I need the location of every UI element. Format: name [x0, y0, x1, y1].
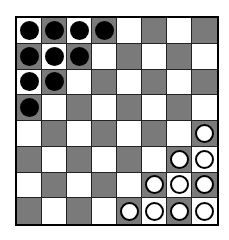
board-square-0-5[interactable]: [142, 18, 167, 44]
white-piece[interactable]: [145, 175, 164, 194]
black-piece[interactable]: [95, 21, 114, 40]
board-square-2-5[interactable]: [142, 70, 167, 96]
board-square-2-7[interactable]: [192, 70, 217, 96]
white-piece[interactable]: [120, 202, 139, 221]
black-piece[interactable]: [20, 47, 39, 66]
board-square-1-6[interactable]: [167, 44, 192, 70]
board-square-5-6[interactable]: [167, 147, 192, 173]
board-square-0-3[interactable]: [92, 18, 117, 44]
board-square-6-6[interactable]: [167, 173, 192, 199]
board-square-3-4[interactable]: [117, 95, 142, 121]
board-square-3-0[interactable]: [17, 95, 42, 121]
board-square-6-1[interactable]: [42, 173, 67, 199]
board-square-2-0[interactable]: [17, 70, 42, 96]
black-piece[interactable]: [45, 47, 64, 66]
white-piece[interactable]: [170, 202, 189, 221]
board-square-2-4[interactable]: [117, 70, 142, 96]
board-square-4-5[interactable]: [142, 121, 167, 147]
board-square-1-1[interactable]: [42, 44, 67, 70]
black-piece[interactable]: [45, 21, 64, 40]
white-piece[interactable]: [195, 175, 214, 194]
board-square-5-7[interactable]: [192, 147, 217, 173]
board-square-7-7[interactable]: [192, 198, 217, 224]
board-square-4-1[interactable]: [42, 121, 67, 147]
board-square-6-0[interactable]: [17, 173, 42, 199]
board-square-0-6[interactable]: [167, 18, 192, 44]
board-square-0-2[interactable]: [67, 18, 92, 44]
board-square-1-4[interactable]: [117, 44, 142, 70]
board-square-3-1[interactable]: [42, 95, 67, 121]
board-square-5-2[interactable]: [67, 147, 92, 173]
white-piece[interactable]: [195, 124, 214, 143]
white-piece[interactable]: [145, 202, 164, 221]
board-square-4-0[interactable]: [17, 121, 42, 147]
board-square-3-5[interactable]: [142, 95, 167, 121]
white-piece[interactable]: [170, 150, 189, 169]
board-square-2-6[interactable]: [167, 70, 192, 96]
board-square-7-4[interactable]: [117, 198, 142, 224]
board-square-0-0[interactable]: [17, 18, 42, 44]
board-square-7-1[interactable]: [42, 198, 67, 224]
board-square-4-6[interactable]: [167, 121, 192, 147]
black-piece[interactable]: [70, 21, 89, 40]
board-square-0-7[interactable]: [192, 18, 217, 44]
board-square-5-0[interactable]: [17, 147, 42, 173]
board-square-0-1[interactable]: [42, 18, 67, 44]
board-square-7-6[interactable]: [167, 198, 192, 224]
board-square-1-0[interactable]: [17, 44, 42, 70]
board-square-7-0[interactable]: [17, 198, 42, 224]
board-square-6-4[interactable]: [117, 173, 142, 199]
board-square-4-2[interactable]: [67, 121, 92, 147]
board-square-6-7[interactable]: [192, 173, 217, 199]
white-piece[interactable]: [195, 202, 214, 221]
black-piece[interactable]: [20, 72, 39, 91]
board-square-5-4[interactable]: [117, 147, 142, 173]
board-square-3-2[interactable]: [67, 95, 92, 121]
board-square-4-3[interactable]: [92, 121, 117, 147]
board-square-5-1[interactable]: [42, 147, 67, 173]
black-piece[interactable]: [45, 72, 64, 91]
board-square-5-5[interactable]: [142, 147, 167, 173]
board-square-7-3[interactable]: [92, 198, 117, 224]
white-piece[interactable]: [195, 150, 214, 169]
board-square-3-3[interactable]: [92, 95, 117, 121]
board-square-5-3[interactable]: [92, 147, 117, 173]
board-square-6-2[interactable]: [67, 173, 92, 199]
board-square-2-1[interactable]: [42, 70, 67, 96]
board-square-7-5[interactable]: [142, 198, 167, 224]
black-piece[interactable]: [20, 21, 39, 40]
board-square-4-7[interactable]: [192, 121, 217, 147]
board-square-0-4[interactable]: [117, 18, 142, 44]
board-square-4-4[interactable]: [117, 121, 142, 147]
game-board: [15, 16, 219, 226]
board-square-3-6[interactable]: [167, 95, 192, 121]
black-piece[interactable]: [20, 98, 39, 117]
white-piece[interactable]: [170, 175, 189, 194]
board-square-7-2[interactable]: [67, 198, 92, 224]
board-square-6-3[interactable]: [92, 173, 117, 199]
board-square-1-3[interactable]: [92, 44, 117, 70]
board-square-1-7[interactable]: [192, 44, 217, 70]
board-square-3-7[interactable]: [192, 95, 217, 121]
board-square-2-3[interactable]: [92, 70, 117, 96]
board-square-6-5[interactable]: [142, 173, 167, 199]
board-square-1-5[interactable]: [142, 44, 167, 70]
board-square-1-2[interactable]: [67, 44, 92, 70]
black-piece[interactable]: [70, 47, 89, 66]
board-square-2-2[interactable]: [67, 70, 92, 96]
